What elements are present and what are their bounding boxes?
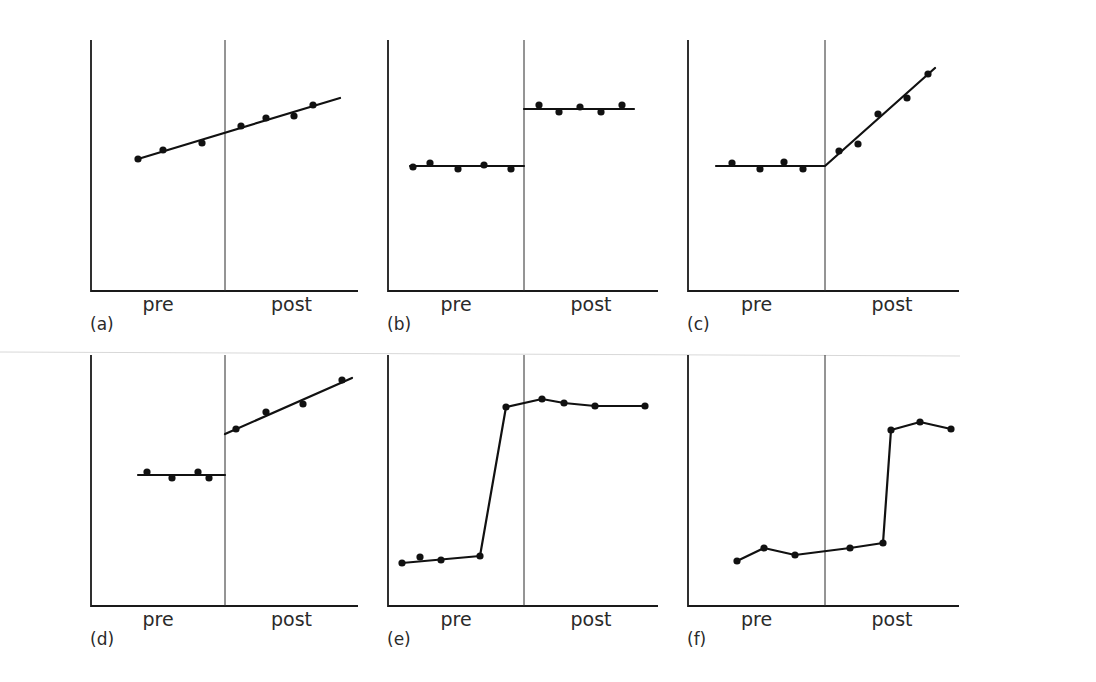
data-point: [309, 101, 316, 108]
data-point: [799, 165, 806, 172]
scan-artifact-line: [0, 352, 960, 356]
data-point: [924, 70, 931, 77]
panel-f: prepost(f): [687, 355, 959, 649]
panel-label: (e): [387, 629, 411, 649]
label-post: post: [570, 608, 611, 630]
label-pre: pre: [440, 293, 471, 315]
data-point: [560, 399, 567, 406]
data-point: [143, 468, 150, 475]
data-point: [835, 147, 842, 154]
panel-label: (a): [90, 314, 114, 334]
data-point: [502, 403, 509, 410]
data-point: [338, 376, 345, 383]
label-post: post: [271, 608, 312, 630]
data-point: [426, 159, 433, 166]
data-point: [591, 402, 598, 409]
label-pre: pre: [142, 608, 173, 630]
data-point: [555, 108, 562, 115]
data-point: [947, 425, 954, 432]
label-pre: pre: [142, 293, 173, 315]
data-point: [409, 163, 416, 170]
panel-c: prepost(c): [687, 40, 959, 334]
data-point: [398, 559, 405, 566]
data-point: [916, 418, 923, 425]
data-point: [168, 474, 175, 481]
data-point: [198, 139, 205, 146]
label-post: post: [871, 293, 912, 315]
label-pre: pre: [440, 608, 471, 630]
data-point: [791, 551, 798, 558]
panel-e: prepost(e): [387, 355, 658, 649]
data-point: [194, 468, 201, 475]
data-point: [733, 557, 740, 564]
data-point: [597, 108, 604, 115]
data-point: [538, 395, 545, 402]
data-point: [134, 155, 141, 162]
axes: [388, 355, 658, 606]
data-point: [262, 408, 269, 415]
data-point: [618, 101, 625, 108]
data-point: [232, 425, 239, 432]
data-point: [887, 426, 894, 433]
data-point: [416, 553, 423, 560]
panel-d: prepost(d): [90, 355, 358, 649]
data-point: [535, 101, 542, 108]
panel-label: (f): [687, 629, 706, 649]
trend-line: [737, 422, 951, 561]
data-point: [299, 400, 306, 407]
data-point: [237, 122, 244, 129]
data-point: [903, 94, 910, 101]
label-post: post: [871, 608, 912, 630]
panel-label: (c): [687, 314, 710, 334]
data-point: [437, 556, 444, 563]
label-post: post: [570, 293, 611, 315]
data-point: [454, 165, 461, 172]
data-point: [760, 544, 767, 551]
data-point: [641, 402, 648, 409]
data-point: [159, 146, 166, 153]
data-point: [846, 544, 853, 551]
trend-line: [225, 378, 352, 434]
label-pre: pre: [741, 608, 772, 630]
axes: [688, 355, 959, 606]
data-point: [205, 474, 212, 481]
label-pre: pre: [741, 293, 772, 315]
data-point: [576, 103, 583, 110]
data-point: [262, 114, 269, 121]
panel-b: prepost(b): [387, 40, 658, 334]
data-point: [879, 539, 886, 546]
panel-label: (d): [90, 629, 114, 649]
data-point: [874, 110, 881, 117]
data-point: [728, 159, 735, 166]
panel-a: prepost(a): [90, 40, 358, 334]
label-post: post: [271, 293, 312, 315]
data-point: [756, 165, 763, 172]
data-point: [476, 552, 483, 559]
data-point: [480, 161, 487, 168]
data-point: [854, 140, 861, 147]
panels-container: prepost(a)prepost(b)prepost(c)prepost(d)…: [90, 40, 959, 649]
interrupted-time-series-figure: prepost(a)prepost(b)prepost(c)prepost(d)…: [0, 0, 1096, 682]
data-point: [507, 165, 514, 172]
data-point: [290, 112, 297, 119]
panel-label: (b): [387, 314, 411, 334]
data-point: [780, 158, 787, 165]
